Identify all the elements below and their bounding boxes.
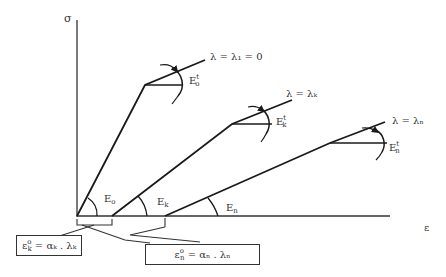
callout-epsilon-n: εon = αₙ . λₙ [145, 244, 260, 265]
tangent-label-n: Etn [389, 140, 400, 155]
lambda-label-k: λ = λₖ [286, 88, 317, 99]
callout-epsilon-k: εok = αₖ . λₖ [16, 235, 82, 256]
stress-strain-diagram: σ ε λ = λ₁ = 0 λ = λₖ λ = λₙ Eto Etk Etn… [0, 0, 446, 277]
lambda-label-n: λ = λₙ [392, 115, 424, 126]
epsilon-axis-label: ε [424, 222, 429, 233]
lambda-label-0: λ = λ₁ = 0 [210, 51, 263, 62]
tangent-label-0: Eto [189, 73, 199, 88]
sigma-axis-label: σ [64, 12, 72, 25]
slope-label-k: Ek [157, 196, 169, 209]
slope-label-0: Eo [104, 193, 116, 206]
slope-label-n: En [226, 202, 238, 215]
tangent-label-k: Etk [276, 114, 286, 129]
